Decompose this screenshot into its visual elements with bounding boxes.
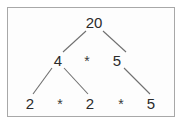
- edge-root-right: [103, 31, 126, 52]
- edge-n4-right: [64, 68, 88, 94]
- operator-multiply-mid: *: [84, 54, 89, 68]
- tree-leaf-5: 5: [147, 96, 155, 111]
- tree-node-root: 20: [86, 15, 103, 30]
- edge-root-left: [63, 31, 86, 52]
- diagram-canvas: 20 4 * 5 2 * 2 * 5: [0, 0, 183, 125]
- operator-multiply-left: *: [57, 97, 62, 111]
- edge-n5a-right: [124, 68, 150, 94]
- tree-node-right-5: 5: [113, 53, 121, 68]
- tree-node-left-4: 4: [54, 53, 62, 68]
- tree-leaf-2-first: 2: [26, 96, 34, 111]
- edge-n4-left: [33, 68, 52, 94]
- tree-leaf-2-second: 2: [86, 96, 94, 111]
- operator-multiply-right: *: [118, 97, 123, 111]
